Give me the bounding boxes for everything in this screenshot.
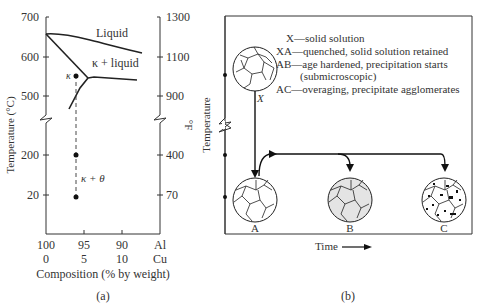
right-tick-label: 1300	[166, 10, 190, 24]
legend-ab: AB—age hardened, precipitation starts	[276, 58, 448, 70]
legend-x: X—solid solution	[286, 32, 365, 44]
panel-b-heat-treatment: Temperature X—solid solution XA—quenched…	[200, 16, 472, 303]
bottom-tick-al-pct: 90	[116, 238, 128, 252]
panel-a-phase-diagram: 700 600 500 200 20 1300 1100 900 400 70 …	[4, 10, 195, 303]
legend-ab-cont: (submicroscopic)	[300, 70, 377, 83]
state-point-x	[74, 74, 79, 79]
eutectic-line	[88, 77, 137, 80]
bottom-axis-title: Composition (% by weight)	[36, 267, 170, 281]
panel-b-x-label: Time	[315, 240, 338, 252]
region-liquid-label: Liquid	[96, 26, 128, 40]
region-kappa-liquid-label: κ + liquid	[92, 56, 139, 70]
right-tick-label: 1100	[166, 50, 190, 64]
left-axis	[40, 17, 52, 234]
left-axis-title: Temperature (°C)	[4, 96, 17, 174]
microstructure-a: A	[233, 178, 277, 234]
right-axis-title: °F	[183, 120, 195, 131]
left-tick-label: 600	[21, 50, 39, 64]
bottom-tick-al-pct: Al	[154, 238, 167, 252]
left-tick-label: 700	[21, 10, 39, 24]
right-tick-label: 70	[166, 188, 178, 202]
bottom-tick-al-pct: 100	[37, 238, 55, 252]
left-tick-label: 200	[21, 148, 39, 162]
temp-marker-aging	[223, 153, 227, 157]
left-tick-label: 500	[21, 89, 39, 103]
right-axis	[154, 17, 166, 234]
region-kappa-theta-label: κ + θ	[81, 172, 105, 184]
microstructure-c: C	[422, 178, 466, 234]
left-tick-label: 20	[27, 188, 39, 202]
panel-b-caption: (b)	[341, 289, 355, 303]
state-point-room	[74, 195, 79, 200]
region-kappa-label: κ	[66, 70, 71, 81]
state-c-label: C	[440, 222, 447, 234]
panel-b-y-label: Temperature	[200, 97, 212, 153]
bottom-tick-cu-pct: 0	[43, 252, 49, 266]
microstructure-b: B	[328, 178, 372, 234]
right-tick-label: 400	[166, 148, 184, 162]
bottom-tick-cu-pct: 10	[116, 252, 128, 266]
legend-ac: AC—overaging, precipitate agglomerates	[276, 83, 460, 95]
right-tick-label: 900	[166, 89, 184, 103]
state-a-label: A	[251, 222, 259, 234]
solvus-line	[69, 78, 88, 109]
bottom-tick-al-pct: 95	[78, 238, 90, 252]
state-point-aging	[74, 153, 79, 158]
panel-a-caption: (a)	[96, 289, 109, 303]
temp-marker-room	[223, 195, 227, 199]
state-x-label: X	[256, 92, 265, 104]
bottom-tick-cu-pct: 5	[81, 252, 87, 266]
state-b-label: B	[346, 222, 353, 234]
temp-marker-solution	[223, 73, 227, 77]
legend-xa: XA—quenched, solid solution retained	[276, 45, 449, 57]
bottom-tick-cu-pct: Cu	[153, 252, 167, 266]
figure: 700 600 500 200 20 1300 1100 900 400 70 …	[0, 0, 480, 304]
